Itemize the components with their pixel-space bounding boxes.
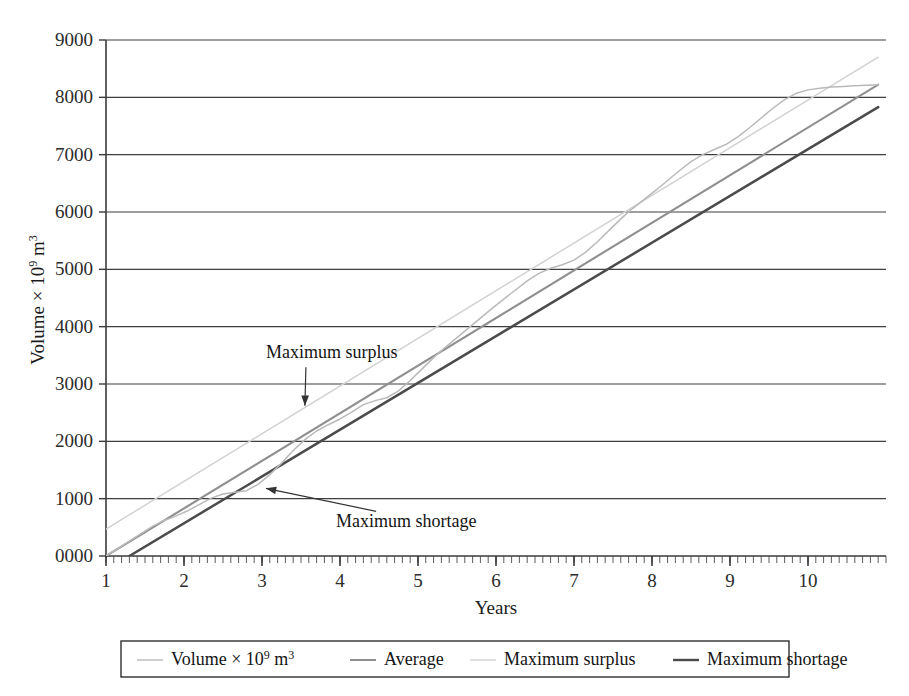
y-tick-label: 1000 [55,488,93,509]
x-tick-label: 1 [101,570,111,591]
x-tick-label: 4 [335,570,345,591]
y-tick-label: 6000 [55,201,93,222]
x-tick-label: 10 [799,570,818,591]
y-tick-label: 8000 [55,86,93,107]
x-tick-label: 2 [179,570,189,591]
y-tick-label: 2000 [55,430,93,451]
x-tick-label: 9 [725,570,735,591]
x-tick-label: 5 [413,570,423,591]
svg-text:Volume × 109 m3: Volume × 109 m3 [26,235,48,365]
chart-figure: 0000100020003000400050006000700080009000… [0,0,909,696]
y-tick-label: 4000 [55,316,93,337]
y-tick-label: 3000 [55,373,93,394]
figure-background [0,0,909,696]
annotation-label-maximum-shortage: Maximum shortage [336,511,476,531]
y-tick-label: 9000 [55,29,93,50]
legend-label: Volume × 109 m3 [171,648,294,669]
legend: Volume × 109 m3AverageMaximum surplusMax… [121,641,847,677]
legend-label: Maximum shortage [707,649,847,669]
y-axis-title-times: × 10 [27,267,48,301]
y-axis-title: Volume × 109 m3 [26,235,48,365]
chart-svg: 0000100020003000400050006000700080009000… [0,0,909,696]
annotation-label-maximum-surplus: Maximum surplus [266,342,398,362]
y-tick-label: 0000 [55,545,93,566]
x-tick-label: 8 [647,570,657,591]
y-tick-label: 7000 [55,144,93,165]
legend-label: Average [384,649,444,669]
y-tick-label: 5000 [55,258,93,279]
x-tick-label: 3 [257,570,267,591]
y-axis-title-unit: m [27,241,48,261]
y-axis-title-main: Volume [27,306,48,365]
x-axis-title: Years [475,597,517,618]
x-tick-label: 6 [491,570,501,591]
legend-label: Maximum surplus [504,649,636,669]
x-tick-label: 7 [569,570,579,591]
y-axis-title-unit-exponent: 3 [26,235,40,241]
